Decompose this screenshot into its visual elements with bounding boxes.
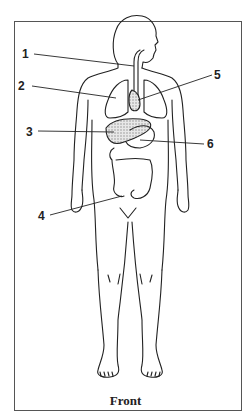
label-5: 5 — [214, 69, 221, 81]
arm-inner-left — [82, 100, 88, 190]
label-1: 1 — [22, 48, 29, 60]
leader-1 — [34, 54, 134, 66]
head-outline — [113, 16, 158, 68]
label-4: 4 — [38, 210, 45, 222]
leader-3 — [38, 131, 114, 132]
torso-right — [162, 120, 169, 270]
label-2: 2 — [18, 80, 25, 92]
label-3: 3 — [26, 126, 33, 138]
esophagus — [134, 50, 144, 96]
large-intestine — [110, 148, 152, 199]
crotch — [120, 208, 136, 218]
leader-5 — [138, 75, 212, 100]
liver — [106, 119, 151, 144]
lung-left — [105, 80, 128, 118]
leader-4 — [50, 196, 122, 215]
leader-2 — [32, 86, 116, 98]
leg-left — [98, 222, 128, 377]
label-6: 6 — [207, 138, 214, 150]
torso-left — [92, 120, 99, 270]
arm-inner-right — [172, 100, 178, 190]
diagram-caption: Front — [0, 393, 251, 409]
lung-right — [144, 80, 167, 118]
leg-right — [132, 222, 162, 377]
